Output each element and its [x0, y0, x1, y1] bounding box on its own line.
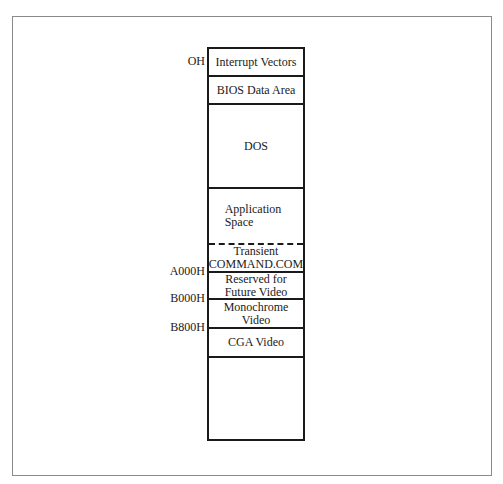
segment-bios-data-area: BIOS Data Area: [209, 77, 303, 105]
segment-dos: DOS: [209, 105, 303, 189]
segment-reserved-future-video: Reserved for Future Video: [209, 273, 303, 300]
address-label-a000h: A000H: [170, 265, 205, 278]
segment-interrupt-vectors: Interrupt Vectors: [209, 49, 303, 77]
address-label-0h: OH: [188, 55, 205, 68]
segment-transient-command-com: Transient COMMAND.COM: [209, 245, 303, 273]
segment-cga-video: CGA Video: [209, 329, 303, 358]
segment-monochrome-video: Monochrome Video: [209, 300, 303, 329]
memory-map-column: Interrupt Vectors BIOS Data Area DOS App…: [207, 47, 305, 441]
address-label-b000h: B000H: [170, 292, 205, 305]
address-label-b800h: B800H: [170, 321, 205, 334]
segment-unlabeled-top: [209, 358, 303, 439]
segment-application-space: Application Space: [209, 189, 303, 245]
